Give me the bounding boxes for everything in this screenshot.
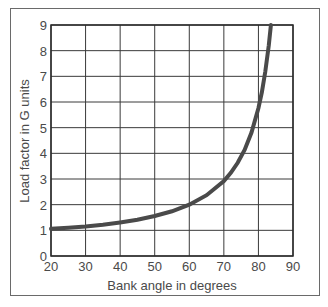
x-tick-label: 20 xyxy=(44,259,58,274)
x-tick-label: 80 xyxy=(251,259,265,274)
grid-lines xyxy=(51,25,293,256)
load-factor-chart: 0123456789 2030405060708090 Bank angle i… xyxy=(0,0,328,307)
x-tick-label: 60 xyxy=(182,259,196,274)
y-tick-label: 1 xyxy=(40,223,47,238)
x-axis-ticks: 2030405060708090 xyxy=(44,259,300,274)
y-tick-label: 2 xyxy=(40,198,47,213)
x-tick-label: 40 xyxy=(113,259,127,274)
y-tick-label: 4 xyxy=(40,146,47,161)
y-tick-label: 9 xyxy=(40,18,47,33)
x-tick-label: 90 xyxy=(286,259,300,274)
y-tick-label: 3 xyxy=(40,172,47,187)
x-tick-label: 30 xyxy=(78,259,92,274)
plot-area xyxy=(51,25,293,256)
y-tick-label: 6 xyxy=(40,95,47,110)
y-tick-label: 5 xyxy=(40,121,47,136)
x-axis-label: Bank angle in degrees xyxy=(107,278,237,293)
y-axis-ticks: 0123456789 xyxy=(40,18,47,264)
y-tick-label: 7 xyxy=(40,69,47,84)
x-tick-label: 50 xyxy=(147,259,161,274)
y-axis-label: Load factor in G units xyxy=(17,79,32,203)
load-factor-curve xyxy=(51,25,271,229)
x-tick-label: 70 xyxy=(217,259,231,274)
y-tick-label: 8 xyxy=(40,44,47,59)
